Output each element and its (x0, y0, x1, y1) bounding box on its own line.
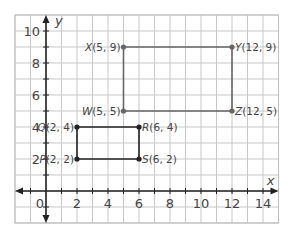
x-axis-arrow-left-icon (15, 188, 23, 195)
x-tick-label: 2 (73, 196, 81, 211)
y-axis-arrow-up-icon (43, 15, 50, 23)
vertex-label-r: R(6, 4) (142, 121, 178, 133)
x-tick-label: 12 (224, 196, 241, 211)
vertex-point-w (121, 108, 126, 113)
vertex-point-p (74, 156, 79, 161)
y-tick-label: 6 (32, 88, 40, 103)
vertex-point-z (229, 108, 234, 113)
vertex-label-q: Q(2, 4) (38, 121, 75, 133)
vertex-label-x: X(5, 9) (84, 41, 120, 53)
y-axis-label: y (54, 13, 63, 28)
vertex-point-y (229, 44, 234, 49)
vertex-label-s: S(6, 2) (142, 153, 177, 165)
x-axis-arrow-right-icon (271, 188, 279, 195)
x-tick-label: 8 (166, 196, 174, 211)
x-tick-label: 6 (135, 196, 143, 211)
coordinate-plane: xy 02468101214246810 P(2, 2)Q(2, 4)R(6, … (0, 0, 294, 237)
vertex-point-r (136, 124, 141, 129)
origin-label: 0 (36, 196, 44, 211)
vertex-point-s (136, 156, 141, 161)
y-tick-label: 8 (32, 56, 40, 71)
vertex-label-z: Z(12, 5) (234, 105, 277, 117)
vertex-point-x (121, 44, 126, 49)
rectangles: P(2, 2)Q(2, 4)R(6, 4)S(6, 2)W(5, 5)X(5, … (38, 41, 278, 165)
vertex-label-y: Y(12, 9) (235, 41, 276, 53)
vertex-point-q (74, 124, 79, 129)
x-axis-label: x (266, 173, 275, 188)
x-tick-label: 14 (255, 196, 272, 211)
x-tick-label: 10 (193, 196, 210, 211)
x-tick-label: 4 (104, 196, 112, 211)
vertex-label-p: P(2, 2) (39, 153, 74, 165)
vertex-label-w: W(5, 5) (82, 105, 121, 117)
y-axis-arrow-down-icon (43, 215, 50, 223)
y-tick-label: 10 (23, 24, 40, 39)
